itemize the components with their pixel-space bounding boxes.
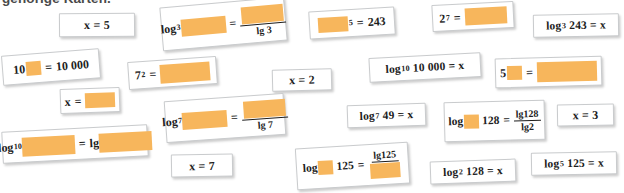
fraction: lg128 lg2 xyxy=(514,108,541,132)
blank-box[interactable] xyxy=(370,162,401,179)
card-text: x = 5 xyxy=(84,19,110,31)
card-5-power-blank-equals-blank[interactable]: 5 = xyxy=(495,56,603,89)
card-x-equals-blank[interactable]: x= xyxy=(60,87,121,114)
page-heading: gehörige Karten. xyxy=(2,0,111,6)
card-log5-125-equals-x[interactable]: log5125 = x xyxy=(531,151,617,175)
card-text: x = 7 xyxy=(189,159,215,171)
blank-box[interactable] xyxy=(182,109,228,129)
blank-box[interactable] xyxy=(98,130,152,152)
fraction: lg 7 xyxy=(241,99,289,132)
blank-box[interactable] xyxy=(464,114,479,128)
card-text: log3 = lg 3 xyxy=(160,4,288,45)
card-text: x = 3 xyxy=(572,109,598,121)
card-log-blank-128-fraction[interactable]: log 128 = lg128 lg2 xyxy=(443,100,545,143)
blank-box[interactable] xyxy=(318,16,349,33)
blank-box[interactable] xyxy=(21,135,75,157)
blank-box[interactable] xyxy=(318,160,334,175)
card-10-power-blank-equals-10000[interactable]: 10 =10 000 xyxy=(1,48,101,86)
blank-box[interactable] xyxy=(243,99,286,119)
blank-box[interactable] xyxy=(537,61,598,83)
card-text: 10 =10 000 xyxy=(13,57,90,77)
card-text: 27 = xyxy=(439,6,507,27)
card-text: 5 =243 xyxy=(318,13,386,32)
card-text: 5 = xyxy=(500,61,597,84)
card-log3-blank-fraction[interactable]: log3 = lg 3 xyxy=(159,0,287,51)
card-7-squared-equals-blank[interactable]: 72 = xyxy=(127,56,218,90)
card-x-equals-5[interactable]: x = 5 xyxy=(59,13,135,38)
card-text: 72 = xyxy=(134,61,210,85)
card-x-equals-2[interactable]: x = 2 xyxy=(272,68,333,92)
card-text: log5125 = x xyxy=(544,157,604,170)
card-text: x = 2 xyxy=(289,74,315,87)
card-text: log749 = x xyxy=(359,109,413,122)
card-log10-blank-equals-lg-blank[interactable]: log10 =lg xyxy=(1,124,148,164)
card-text: log2128 = x xyxy=(443,165,503,179)
card-log2-128-equals-x[interactable]: log2128 = x xyxy=(430,159,517,185)
card-x-equals-7[interactable]: x = 7 xyxy=(171,153,233,177)
card-log7-blank-fraction[interactable]: log7 = lg 7 xyxy=(164,93,287,143)
card-log10-10000-equals-x[interactable]: log1010 000 = x xyxy=(368,52,481,83)
fraction: lg125 xyxy=(367,149,403,179)
worksheet-canvas: gehörige Karten. x = 5 log3 = lg 3 5 =24… xyxy=(0,0,624,193)
card-log7-49-equals-x[interactable]: log749 = x xyxy=(347,103,427,129)
blank-box[interactable] xyxy=(26,61,42,76)
card-text: log1010 000 = x xyxy=(385,60,464,76)
card-blank-power-5-equals-243[interactable]: 5 =243 xyxy=(308,6,396,39)
card-text: log10 =lg xyxy=(0,130,152,157)
card-text: log 125 = lg125 xyxy=(302,149,403,183)
blank-box[interactable] xyxy=(464,6,507,25)
card-text: log3243 = x xyxy=(546,19,606,32)
fraction: lg 3 xyxy=(239,4,287,38)
blank-box[interactable] xyxy=(160,61,211,83)
blank-box[interactable] xyxy=(241,4,284,25)
card-2-power-7-equals-blank[interactable]: 27 = xyxy=(431,1,514,32)
card-text: log7 = lg 7 xyxy=(161,99,288,138)
card-log3-243-equals-x[interactable]: log3243 = x xyxy=(533,13,619,37)
card-log-blank-125-fraction[interactable]: log 125 = lg125 xyxy=(295,142,410,191)
blank-box[interactable] xyxy=(85,92,116,108)
blank-box[interactable] xyxy=(180,15,226,36)
card-x-equals-3[interactable]: x = 3 xyxy=(557,104,614,127)
card-text: x= xyxy=(64,92,115,109)
blank-box[interactable] xyxy=(507,66,522,80)
card-text: log 128 = lg128 lg2 xyxy=(448,108,541,133)
